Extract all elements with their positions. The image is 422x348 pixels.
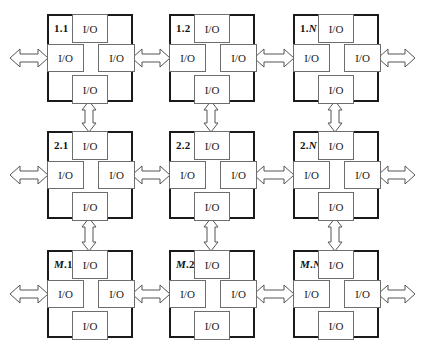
bidirectional-arrow-horizontal xyxy=(254,285,294,303)
io-port-top: I/O xyxy=(318,131,354,160)
io-port-bottom: I/O xyxy=(72,311,108,340)
io-port-right: I/O xyxy=(344,280,381,308)
io-port-bottom: I/O xyxy=(194,192,230,221)
io-port-top: I/O xyxy=(318,14,354,43)
node-label: M.1 xyxy=(54,258,73,270)
bidirectional-arrow-vertical xyxy=(328,101,342,132)
bidirectional-arrow-horizontal xyxy=(254,49,294,67)
io-port-right: I/O xyxy=(220,44,257,72)
io-port-top: I/O xyxy=(194,250,230,279)
io-port-left: I/O xyxy=(47,44,84,72)
node-label: 1.2 xyxy=(176,22,190,34)
io-port-left: I/O xyxy=(169,161,206,189)
io-port-top: I/O xyxy=(194,131,230,160)
node-1-1: 1.1I/OI/OI/OI/O xyxy=(47,14,133,102)
io-port-right: I/O xyxy=(220,280,257,308)
io-port-right: I/O xyxy=(220,161,257,189)
bidirectional-arrow-horizontal xyxy=(378,49,415,67)
io-port-left: I/O xyxy=(293,161,330,189)
io-port-bottom: I/O xyxy=(72,75,108,104)
node-label: 2.N xyxy=(300,139,317,151)
io-port-right: I/O xyxy=(344,161,381,189)
bidirectional-arrow-horizontal xyxy=(254,166,294,184)
io-port-left: I/O xyxy=(169,44,206,72)
node-2-1: 2.1I/OI/OI/OI/O xyxy=(47,131,133,219)
io-port-bottom: I/O xyxy=(72,192,108,221)
node-label: 1.1 xyxy=(54,22,68,34)
bidirectional-arrow-vertical xyxy=(82,101,96,132)
node-label: 2.2 xyxy=(176,139,190,151)
io-port-left: I/O xyxy=(169,280,206,308)
io-port-top: I/O xyxy=(72,250,108,279)
node-label: 1.N xyxy=(300,22,317,34)
mesh-diagram: 1.1I/OI/OI/OI/O1.2I/OI/OI/OI/O1.NI/OI/OI… xyxy=(0,0,422,348)
node-label: M.2 xyxy=(176,258,195,270)
node-1-n: 1.NI/OI/OI/OI/O xyxy=(293,14,379,102)
bidirectional-arrow-vertical xyxy=(204,218,218,251)
bidirectional-arrow-horizontal xyxy=(10,166,48,184)
node-label: 2.1 xyxy=(54,139,68,151)
bidirectional-arrow-vertical xyxy=(204,101,218,132)
io-port-bottom: I/O xyxy=(194,311,230,340)
node-m-2: M.2I/OI/OI/OI/O xyxy=(169,250,255,338)
io-port-bottom: I/O xyxy=(318,75,354,104)
io-port-left: I/O xyxy=(293,44,330,72)
io-port-top: I/O xyxy=(72,14,108,43)
io-port-left: I/O xyxy=(293,280,330,308)
io-port-left: I/O xyxy=(47,161,84,189)
bidirectional-arrow-vertical xyxy=(82,218,96,251)
io-port-top: I/O xyxy=(194,14,230,43)
io-port-left: I/O xyxy=(47,280,84,308)
bidirectional-arrow-horizontal xyxy=(132,285,170,303)
io-port-top: I/O xyxy=(318,250,354,279)
io-port-right: I/O xyxy=(98,280,135,308)
io-port-right: I/O xyxy=(344,44,381,72)
io-port-top: I/O xyxy=(72,131,108,160)
node-2-n: 2.NI/OI/OI/OI/O xyxy=(293,131,379,219)
bidirectional-arrow-horizontal xyxy=(132,166,170,184)
io-port-right: I/O xyxy=(98,44,135,72)
node-2-2: 2.2I/OI/OI/OI/O xyxy=(169,131,255,219)
node-m-1: M.1I/OI/OI/OI/O xyxy=(47,250,133,338)
bidirectional-arrow-horizontal xyxy=(10,285,48,303)
io-port-right: I/O xyxy=(98,161,135,189)
node-m-n: M.NI/OI/OI/OI/O xyxy=(293,250,379,338)
io-port-bottom: I/O xyxy=(318,311,354,340)
io-port-bottom: I/O xyxy=(194,75,230,104)
io-port-bottom: I/O xyxy=(318,192,354,221)
bidirectional-arrow-horizontal xyxy=(132,49,170,67)
bidirectional-arrow-horizontal xyxy=(10,49,48,67)
bidirectional-arrow-horizontal xyxy=(378,285,415,303)
bidirectional-arrow-vertical xyxy=(328,218,342,251)
node-1-2: 1.2I/OI/OI/OI/O xyxy=(169,14,255,102)
bidirectional-arrow-horizontal xyxy=(378,166,415,184)
